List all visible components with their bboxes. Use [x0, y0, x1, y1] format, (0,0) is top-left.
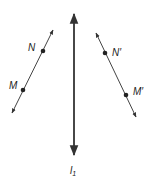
reflection-diagram: l1 N M N′ M′ — [0, 0, 158, 189]
point-n-prime — [103, 51, 108, 56]
point-m-prime — [124, 93, 129, 98]
label-n: N — [28, 42, 36, 53]
label-m-prime: M′ — [133, 86, 144, 97]
axis-label: l1 — [70, 165, 76, 177]
label-n-prime: N′ — [112, 47, 122, 58]
label-m: M — [9, 80, 18, 91]
line-m-prime-n-prime — [96, 33, 136, 117]
point-m — [21, 88, 26, 93]
point-n — [41, 49, 46, 54]
